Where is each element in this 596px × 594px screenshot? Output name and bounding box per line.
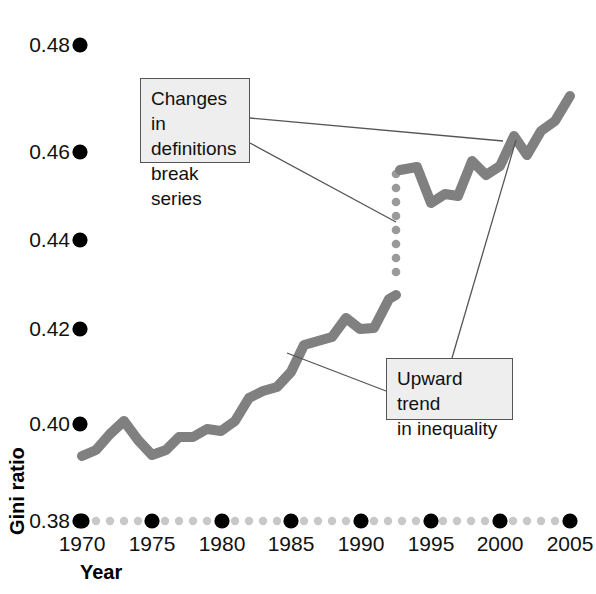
- plot-area: [0, 0, 596, 594]
- x-axis-title: Year: [80, 561, 122, 584]
- annotation-definitions-break: Changes in definitions break series: [140, 78, 250, 163]
- annotation-trend-line-1: Upward trend: [397, 366, 503, 416]
- ytick-label-040: 0.40: [0, 412, 70, 436]
- ytick-label-044: 0.44: [0, 228, 70, 252]
- xtick-label-1985: 1985: [251, 532, 331, 556]
- xtick-label-2000: 2000: [460, 532, 540, 556]
- xtick-label-2005: 2005: [530, 532, 596, 556]
- ytick-label-046: 0.46: [0, 140, 70, 164]
- x-axis-minor-ticks: [92, 517, 559, 525]
- ytick-label-048: 0.48: [0, 33, 70, 57]
- annotation-definitions-line-1: Changes in: [151, 86, 240, 136]
- series-line-post-break: [400, 96, 570, 203]
- leader-line-definitions-to-series: [250, 118, 503, 141]
- series-line-pre-break: [82, 295, 396, 456]
- xtick-label-1995: 1995: [391, 532, 471, 556]
- annotation-definitions-line-3: break series: [151, 161, 240, 211]
- gini-ratio-line-chart: 0.48 0.46 0.44 0.42 0.40 0.38 1970 1975 …: [0, 0, 596, 594]
- ytick-label-042: 0.42: [0, 317, 70, 341]
- leader-line-trend-to-series: [287, 353, 386, 391]
- xtick-label-1970: 1970: [42, 532, 122, 556]
- xtick-label-1980: 1980: [182, 532, 262, 556]
- y-axis-title: Gini ratio: [6, 447, 29, 535]
- annotation-definitions-line-2: definitions: [151, 136, 240, 161]
- x-axis-major-ticks: [74, 513, 577, 528]
- xtick-label-1975: 1975: [112, 532, 192, 556]
- annotation-upward-trend: Upward trend in inequality: [386, 358, 513, 420]
- xtick-label-1990: 1990: [321, 532, 401, 556]
- leader-line-definitions-to-break: [250, 143, 396, 222]
- series-break-dotted-line: [392, 170, 401, 277]
- annotation-trend-line-2: in inequality: [397, 416, 503, 441]
